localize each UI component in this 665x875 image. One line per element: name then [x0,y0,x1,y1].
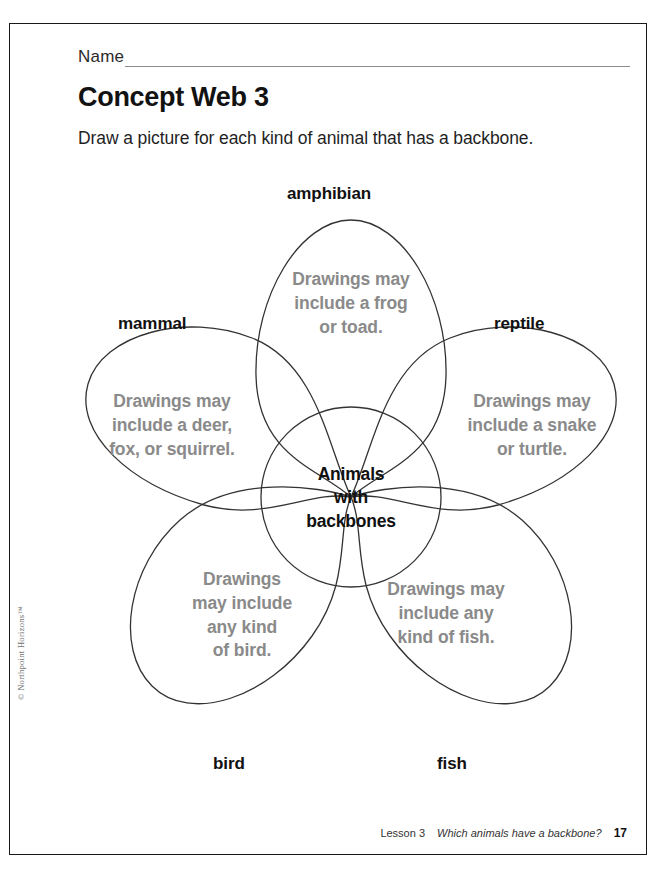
page-footer: Lesson 3 Which animals have a backbone? … [0,826,627,840]
concept-web-diagram: Drawings may include a frog or toad. Dra… [0,168,665,798]
center-label-text: Animals with backbones [268,463,434,533]
instruction-text: Draw a picture for each kind of animal t… [78,128,533,149]
category-label-bird: bird [213,754,245,774]
answer-line: include a deer, [68,414,276,438]
center-line: backbones [268,510,434,533]
answer-line: or toad. [253,316,449,340]
answer-line: may include [150,592,334,616]
answer-line: fox, or squirrel. [68,438,276,462]
page-title: Concept Web 3 [78,82,269,113]
petal-answer-bird: Drawings may include any kind of bird. [150,568,334,663]
category-label-amphibian: amphibian [287,184,371,204]
answer-line: include a snake [432,414,632,438]
answer-line: or turtle. [432,438,632,462]
answer-line: Drawings may [68,390,276,414]
answer-line: include any [348,602,544,626]
answer-line: Drawings may [348,578,544,602]
category-label-fish: fish [437,754,467,774]
answer-line: kind of fish. [348,626,544,650]
center-line: with [268,486,434,509]
footer-page-number: 17 [614,826,627,840]
answer-line: include a frog [253,292,449,316]
answer-line: Drawings may [432,390,632,414]
answer-line: Drawings [150,568,334,592]
answer-line: of bird. [150,639,334,663]
footer-lesson: Lesson 3 [380,827,425,839]
answer-line: any kind [150,616,334,640]
name-field-row: Name [78,47,630,71]
copyright-notice: © Northpoint Horizons™ [16,560,26,700]
petal-answer-amphibian: Drawings may include a frog or toad. [253,268,449,339]
petal-answer-mammal: Drawings may include a deer, fox, or squ… [68,390,276,461]
name-label: Name [78,47,124,67]
petal-answer-reptile: Drawings may include a snake or turtle. [432,390,632,461]
petal-answer-fish: Drawings may include any kind of fish. [348,578,544,649]
footer-description: Which animals have a backbone? [437,827,601,839]
category-label-mammal: mammal [118,314,186,334]
worksheet-page: Name Concept Web 3 Draw a picture for ea… [0,0,665,875]
name-write-line[interactable] [125,66,630,67]
category-label-reptile: reptile [494,314,544,334]
center-line: Animals [268,463,434,486]
answer-line: Drawings may [253,268,449,292]
